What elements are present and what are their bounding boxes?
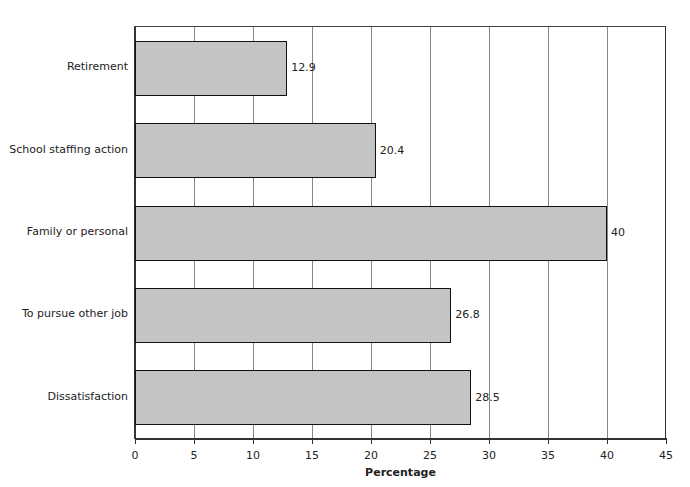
bar xyxy=(135,206,607,261)
x-tick-label: 15 xyxy=(297,449,327,462)
x-tick-label: 35 xyxy=(533,449,563,462)
x-tick xyxy=(194,438,195,444)
x-axis-line xyxy=(135,438,666,440)
x-tick-label: 30 xyxy=(474,449,504,462)
bar xyxy=(135,288,451,343)
category-label: To pursue other job xyxy=(0,307,128,320)
x-tick-label: 45 xyxy=(651,449,681,462)
bar-value-label: 12.9 xyxy=(291,61,316,74)
x-tick xyxy=(607,438,608,444)
bar-value-label: 26.8 xyxy=(455,308,480,321)
x-tick-label: 40 xyxy=(592,449,622,462)
x-tick xyxy=(312,438,313,444)
x-tick xyxy=(253,438,254,444)
bar xyxy=(135,41,287,96)
bar xyxy=(135,370,471,425)
category-label: School staffing action xyxy=(0,143,128,156)
bar-value-label: 28.5 xyxy=(475,391,500,404)
bar xyxy=(135,123,376,178)
x-axis-title: Percentage xyxy=(135,466,666,479)
x-tick xyxy=(548,438,549,444)
category-label: Retirement xyxy=(0,60,128,73)
x-tick-label: 25 xyxy=(415,449,445,462)
horizontal-bar-chart: 12.920.44026.828.5 051015202530354045 Re… xyxy=(0,0,690,487)
plot-area: 12.920.44026.828.5 xyxy=(135,26,666,438)
category-label: Dissatisfaction xyxy=(0,390,128,403)
gridline xyxy=(607,27,608,438)
x-tick xyxy=(371,438,372,444)
bar-value-label: 20.4 xyxy=(380,144,405,157)
x-tick-label: 0 xyxy=(120,449,150,462)
x-tick xyxy=(489,438,490,444)
bar-value-label: 40 xyxy=(611,226,625,239)
x-tick-label: 5 xyxy=(179,449,209,462)
x-tick xyxy=(666,438,667,444)
x-tick-label: 20 xyxy=(356,449,386,462)
x-tick xyxy=(135,438,136,444)
x-tick xyxy=(430,438,431,444)
category-label: Family or personal xyxy=(0,225,128,238)
x-tick-label: 10 xyxy=(238,449,268,462)
